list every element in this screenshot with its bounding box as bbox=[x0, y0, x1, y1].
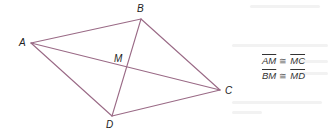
diagonal-ac bbox=[31, 43, 220, 90]
intersection-label-m: M bbox=[114, 54, 122, 64]
vertex-label-b: B bbox=[137, 4, 144, 14]
side-da bbox=[31, 43, 112, 116]
side-cd bbox=[112, 90, 220, 116]
segment-bm: BM bbox=[262, 70, 276, 81]
vertex-label-c: C bbox=[225, 86, 232, 96]
congruence-statement-2: BM≅MD bbox=[262, 71, 305, 81]
diagonal-bd bbox=[112, 19, 141, 116]
segment-md: MD bbox=[290, 70, 305, 81]
congruent-symbol: ≅ bbox=[279, 56, 287, 66]
vertex-label-d: D bbox=[106, 120, 113, 130]
segment-am: AM bbox=[262, 55, 276, 66]
segment-mc: MC bbox=[290, 55, 305, 66]
quadrilateral-diagram bbox=[0, 0, 328, 134]
vertex-label-a: A bbox=[19, 38, 26, 48]
congruent-symbol: ≅ bbox=[279, 71, 287, 81]
side-ab bbox=[31, 19, 141, 43]
congruence-statement-1: AM≅MC bbox=[262, 56, 305, 66]
side-bc bbox=[141, 19, 220, 90]
